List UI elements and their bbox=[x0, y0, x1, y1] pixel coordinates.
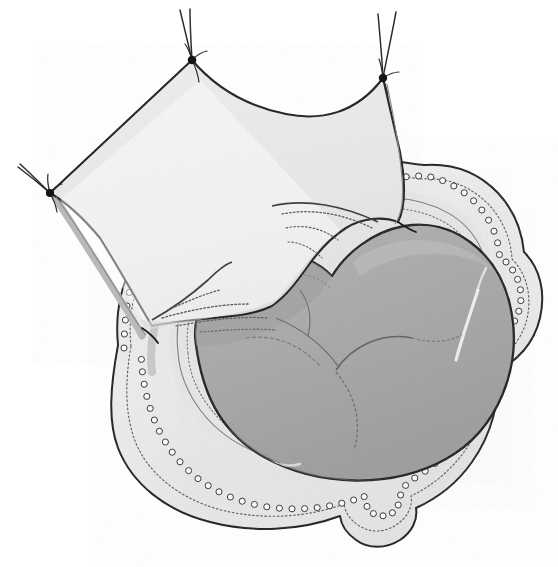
anatomical-illustration: Surgical anatomical line illustration Re… bbox=[0, 0, 558, 567]
suture-left-knot bbox=[46, 189, 54, 197]
figure-root: Surgical anatomical line illustration Re… bbox=[0, 0, 558, 567]
suture-right-knot bbox=[379, 74, 387, 82]
suture-top-knot bbox=[188, 56, 197, 65]
